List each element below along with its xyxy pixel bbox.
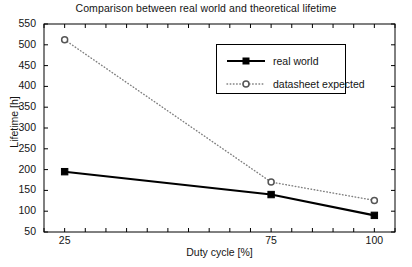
x-tick-label: 100 xyxy=(354,234,394,246)
data-point xyxy=(268,179,274,185)
legend-label: datasheet expected xyxy=(273,78,365,90)
data-point xyxy=(371,197,377,203)
y-tick-label: 300 xyxy=(2,121,36,133)
chart-plot-area xyxy=(0,0,412,267)
data-point xyxy=(61,168,67,174)
series-line-0 xyxy=(65,172,375,216)
legend-item-1: datasheet expected xyxy=(225,78,365,90)
legend-line-solid-icon xyxy=(225,55,267,67)
chart-figure: Comparison between real world and theore… xyxy=(0,0,412,267)
y-tick-label: 350 xyxy=(2,100,36,112)
x-tick-label: 25 xyxy=(45,234,85,246)
y-tick-label: 100 xyxy=(2,204,36,216)
data-point xyxy=(62,37,68,43)
y-tick-label: 500 xyxy=(2,38,36,50)
legend-line-dotted-icon xyxy=(225,78,267,90)
y-tick-label: 450 xyxy=(2,59,36,71)
y-tick-label: 250 xyxy=(2,142,36,154)
data-point xyxy=(268,191,274,197)
x-tick-label: 75 xyxy=(251,234,291,246)
data-point xyxy=(371,212,377,218)
legend-label: real world xyxy=(273,55,319,67)
y-tick-label: 200 xyxy=(2,163,36,175)
y-tick-label: 550 xyxy=(2,17,36,29)
chart-legend: real worlddatasheet expected xyxy=(216,44,346,94)
legend-item-0: real world xyxy=(225,55,319,67)
y-tick-label: 150 xyxy=(2,183,36,195)
x-axis-label: Duty cycle [%] xyxy=(44,246,395,258)
y-tick-label: 50 xyxy=(2,225,36,237)
y-tick-label: 400 xyxy=(2,79,36,91)
